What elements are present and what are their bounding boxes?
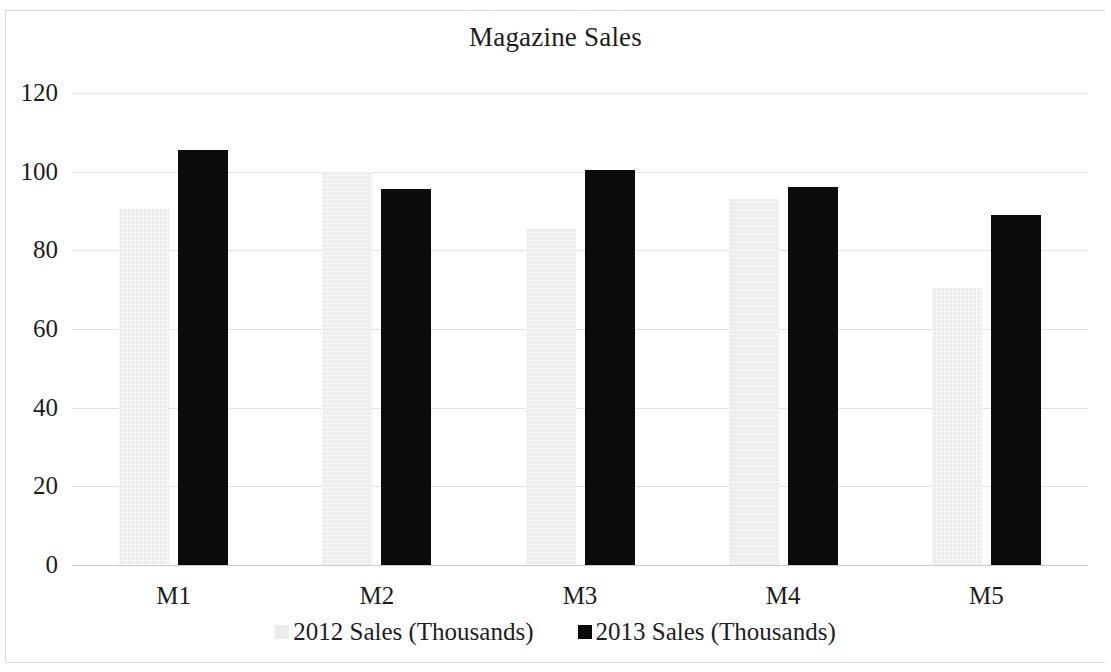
legend-entry[interactable]: 2012 Sales (Thousands) — [275, 618, 533, 646]
bar-M4-series1 — [729, 199, 779, 565]
x-tick-label: M2 — [278, 582, 476, 610]
y-tick-label: 80 — [0, 236, 58, 264]
bar-M2-series1 — [322, 172, 372, 565]
y-tick-label: 120 — [0, 79, 58, 107]
bar-M2-series2 — [381, 189, 431, 565]
bar-M1-series2 — [178, 150, 228, 565]
bar-M3-series1 — [526, 229, 576, 565]
x-tick-label: M5 — [887, 582, 1085, 610]
plot-area — [72, 93, 1088, 565]
legend-label: 2013 Sales (Thousands) — [596, 618, 836, 646]
x-tick-label: M1 — [75, 582, 273, 610]
bar-M4-series2 — [788, 187, 838, 565]
bar-M1-series1 — [119, 209, 169, 565]
legend-swatch-icon — [578, 625, 592, 639]
bar-M5-series2 — [991, 215, 1041, 565]
legend-swatch-icon — [275, 625, 289, 639]
y-tick-label: 100 — [0, 158, 58, 186]
y-tick-label: 40 — [0, 394, 58, 422]
bar-M5-series1 — [932, 288, 982, 565]
gridline-0 — [72, 565, 1088, 566]
chart-legend: 2012 Sales (Thousands)2013 Sales (Thousa… — [0, 618, 1111, 646]
legend-entry[interactable]: 2013 Sales (Thousands) — [578, 618, 836, 646]
x-tick-label: M4 — [684, 582, 882, 610]
chart-title: Magazine Sales — [0, 22, 1111, 53]
legend-label: 2012 Sales (Thousands) — [293, 618, 533, 646]
bar-M3-series2 — [585, 170, 635, 565]
y-tick-label: 0 — [0, 551, 58, 579]
y-tick-label: 20 — [0, 472, 58, 500]
x-tick-label: M3 — [481, 582, 679, 610]
gridline-120 — [72, 93, 1088, 94]
y-tick-label: 60 — [0, 315, 58, 343]
